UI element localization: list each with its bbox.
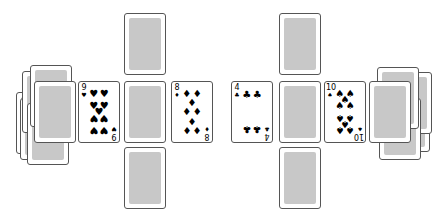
hearts-pip-icon: ♥ <box>99 125 109 135</box>
right-column-bottom-card[interactable] <box>279 147 321 209</box>
diamonds-pip-icon: ♦ <box>192 125 202 135</box>
card-index-br: 9♥ <box>110 126 118 140</box>
hearts-icon: ♥ <box>80 92 88 98</box>
card-index-tl: 9♥ <box>80 84 88 98</box>
diamonds-pip-icon: ♦ <box>182 125 192 135</box>
hearts-icon: ♥ <box>110 126 118 132</box>
card-9-hearts[interactable]: 9♥9♥♥♥♥♥♥♥♥♥♥ <box>78 81 120 143</box>
diamonds-icon: ♦ <box>173 92 181 98</box>
card-rank: 8 <box>204 132 209 141</box>
hearts-pip-icon: ♥ <box>99 113 109 123</box>
card-rank: 9 <box>111 132 116 141</box>
card-index-tl: 10♠ <box>326 84 334 98</box>
card-index-tl: 8♦ <box>173 84 181 98</box>
left-pile-top-card[interactable] <box>34 81 76 143</box>
right-column-top-card[interactable] <box>279 13 321 75</box>
diamonds-icon: ♦ <box>203 126 211 132</box>
card-rank: 10 <box>354 132 364 141</box>
left-column-bottom-card[interactable] <box>124 147 166 209</box>
left-column-top-card[interactable] <box>124 13 166 75</box>
hearts-pip-icon: ♥ <box>99 89 109 99</box>
card-8-diamonds[interactable]: 8♦8♦♦♦♦♦♦♦♦♦ <box>171 81 213 143</box>
right-pile-top-card[interactable] <box>369 81 411 143</box>
card-index-br: 4♣ <box>263 126 271 140</box>
left-column-middle-card[interactable] <box>124 81 166 143</box>
spades-icon: ♠ <box>326 92 334 98</box>
spades-pip-icon: ♠ <box>345 101 355 111</box>
clubs-pip-icon: ♣ <box>252 124 262 134</box>
spades-pip-icon: ♠ <box>345 125 355 135</box>
card-index-tl: 4♣ <box>233 84 241 98</box>
clubs-pip-icon: ♣ <box>252 90 262 100</box>
spades-pip-icon: ♠ <box>335 101 345 111</box>
card-rank: 4 <box>264 132 269 141</box>
right-column-middle-card[interactable] <box>279 81 321 143</box>
card-index-br: 10♠ <box>356 126 364 140</box>
hearts-pip-icon: ♥ <box>89 89 99 99</box>
clubs-icon: ♣ <box>233 92 241 98</box>
hearts-pip-icon: ♥ <box>89 113 99 123</box>
card-index-br: 8♦ <box>203 126 211 140</box>
card-4-clubs[interactable]: 4♣4♣♣♣♣♣ <box>231 81 273 143</box>
clubs-pip-icon: ♣ <box>242 90 252 100</box>
spades-pip-icon: ♠ <box>335 125 345 135</box>
clubs-pip-icon: ♣ <box>242 124 252 134</box>
hearts-pip-icon: ♥ <box>89 125 99 135</box>
card-10-spades[interactable]: 10♠10♠♠♠♠♠♠♠♠♠♠♠ <box>324 81 366 143</box>
clubs-icon: ♣ <box>263 126 271 132</box>
